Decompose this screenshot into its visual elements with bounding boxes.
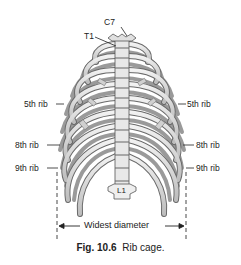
label-5th-rib-left: 5th rib	[24, 100, 48, 109]
label-9th-rib-right: 9th rib	[196, 164, 220, 173]
rib-cage-figure: C7 T1 5th rib 5th rib 8th rib 8th rib 9t…	[0, 0, 241, 265]
label-c7: C7	[104, 18, 115, 27]
label-8th-rib-left: 8th rib	[15, 141, 39, 150]
label-t1: T1	[84, 32, 94, 41]
figure-title: Rib cage.	[122, 242, 164, 253]
label-8th-rib-right: 8th rib	[196, 141, 220, 150]
label-widest-diameter: Widest diameter	[84, 220, 149, 230]
label-l1: L1	[117, 187, 126, 195]
figure-caption: Fig. 10.6 Rib cage.	[0, 242, 241, 253]
label-5th-rib-right: 5th rib	[187, 100, 211, 109]
label-9th-rib-left: 9th rib	[15, 164, 39, 173]
figure-number: Fig. 10.6	[76, 242, 116, 253]
